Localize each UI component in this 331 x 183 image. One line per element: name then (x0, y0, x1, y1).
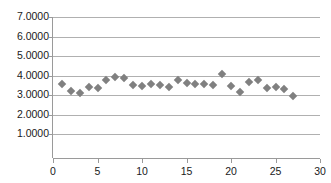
x-axis-tick-label: 10 (130, 166, 154, 177)
y-axis-tick-mark (49, 115, 53, 116)
data-point-marker (156, 81, 164, 89)
x-axis-tick-label: 20 (219, 166, 243, 177)
x-axis-tick-mark (98, 159, 99, 163)
data-point-marker (67, 87, 75, 95)
data-point-marker (138, 82, 146, 90)
x-axis-tick-mark (53, 159, 54, 163)
y-axis-tick-label: 2.0000 (17, 109, 49, 120)
data-point-marker (191, 80, 199, 88)
data-point-marker (93, 84, 101, 92)
data-point-marker (245, 78, 253, 86)
data-point-marker (253, 76, 261, 84)
gridline-y (53, 17, 320, 18)
gridline-y (53, 134, 320, 135)
data-point-marker (271, 82, 279, 90)
y-axis-tick-label: 5.0000 (17, 50, 49, 61)
x-axis-tick-mark (187, 159, 188, 163)
data-point-marker (280, 84, 288, 92)
y-axis-tick-mark (49, 17, 53, 18)
x-axis-tick-label: 15 (175, 166, 199, 177)
data-point-marker (227, 81, 235, 89)
data-point-marker (209, 81, 217, 89)
y-axis-tick-mark (49, 76, 53, 77)
data-point-marker (84, 83, 92, 91)
data-point-marker (289, 92, 297, 100)
data-point-marker (111, 73, 119, 81)
scatter-chart: 1.00002.00003.00004.00005.00006.00007.00… (0, 0, 331, 183)
x-axis-tick-label: 0 (41, 166, 65, 177)
x-axis-tick-label: 30 (308, 166, 331, 177)
gridline-y (53, 115, 320, 116)
x-axis-tick-label: 5 (86, 166, 110, 177)
data-point-marker (200, 79, 208, 87)
gridline-y (53, 56, 320, 57)
y-axis-tick-label: 7.0000 (17, 11, 49, 22)
y-axis-tick-mark (49, 37, 53, 38)
y-axis-tick-mark (49, 56, 53, 57)
data-point-marker (129, 81, 137, 89)
y-axis-tick-label: 6.0000 (17, 31, 49, 42)
gridline-y (53, 37, 320, 38)
y-axis-tick-labels: 1.00002.00003.00004.00005.00006.00007.00… (0, 0, 49, 183)
x-axis-tick-mark (320, 159, 321, 163)
y-axis-tick-mark (49, 95, 53, 96)
data-point-marker (164, 83, 172, 91)
data-point-marker (147, 80, 155, 88)
y-axis-tick-label: 4.0000 (17, 70, 49, 81)
y-axis-tick-label: 3.0000 (17, 89, 49, 100)
y-axis-tick-mark (49, 134, 53, 135)
plot-area (53, 17, 320, 154)
data-point-marker (262, 84, 270, 92)
data-point-marker (218, 70, 226, 78)
data-point-marker (102, 76, 110, 84)
x-axis-tick-mark (276, 159, 277, 163)
x-axis-tick-label: 25 (264, 166, 288, 177)
x-axis-tick-mark (142, 159, 143, 163)
data-point-marker (58, 80, 66, 88)
y-axis-tick-label: 1.0000 (17, 128, 49, 139)
gridline-y (53, 95, 320, 96)
gridline-y (53, 76, 320, 77)
x-axis-tick-mark (231, 159, 232, 163)
